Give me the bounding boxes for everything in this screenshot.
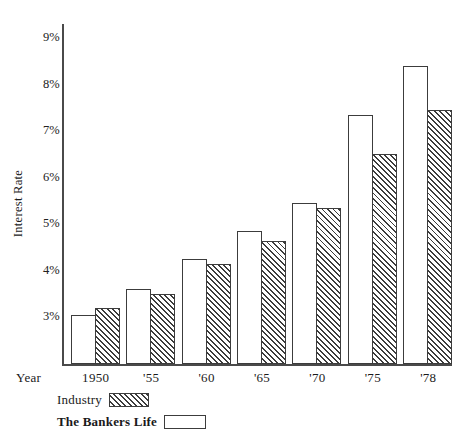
bar-industry [372, 154, 397, 364]
bar-group [126, 24, 176, 364]
y-tick-label: 9% [26, 31, 60, 44]
legend-swatch-open [164, 415, 206, 429]
y-tick-label: 7% [26, 124, 60, 137]
legend-item: The Bankers Life [57, 412, 206, 432]
legend-label: Industry [57, 392, 102, 408]
bar-industry [427, 110, 452, 364]
bar-industry [316, 208, 341, 364]
bar-industry [150, 294, 175, 364]
bar-group [237, 24, 287, 364]
bar-group [182, 24, 232, 364]
y-tick-label: 5% [26, 217, 60, 230]
legend-swatch-hatched [109, 393, 149, 407]
interest-rate-bar-chart: Interest Rate 9%8%7%6%5%4%3% 1950'55'60'… [0, 0, 464, 436]
chart-legend: IndustryThe Bankers Life [57, 390, 206, 434]
x-axis-title: Year [16, 370, 41, 386]
bar-industry [95, 308, 120, 364]
bar-bankers-life [126, 289, 151, 364]
bar-bankers-life [348, 115, 373, 364]
legend-item: Industry [57, 390, 206, 410]
x-axis-line [62, 364, 452, 366]
bar-group [71, 24, 121, 364]
bar-group [403, 24, 453, 364]
bar-bankers-life [182, 259, 207, 364]
plot-area [64, 24, 452, 364]
y-axis-title: Interest Rate [11, 149, 26, 259]
x-tick-label: '78 [393, 370, 463, 386]
bar-bankers-life [71, 315, 96, 364]
bar-industry [261, 241, 286, 364]
legend-label: The Bankers Life [57, 414, 157, 430]
bar-bankers-life [403, 66, 428, 364]
bar-industry [206, 264, 231, 364]
y-tick-label: 4% [26, 264, 60, 277]
y-tick-label: 3% [26, 310, 60, 323]
bar-group [292, 24, 342, 364]
bar-bankers-life [292, 203, 317, 364]
y-tick-label: 8% [26, 78, 60, 91]
y-tick-label: 6% [26, 171, 60, 184]
bar-bankers-life [237, 231, 262, 364]
bar-group [348, 24, 398, 364]
